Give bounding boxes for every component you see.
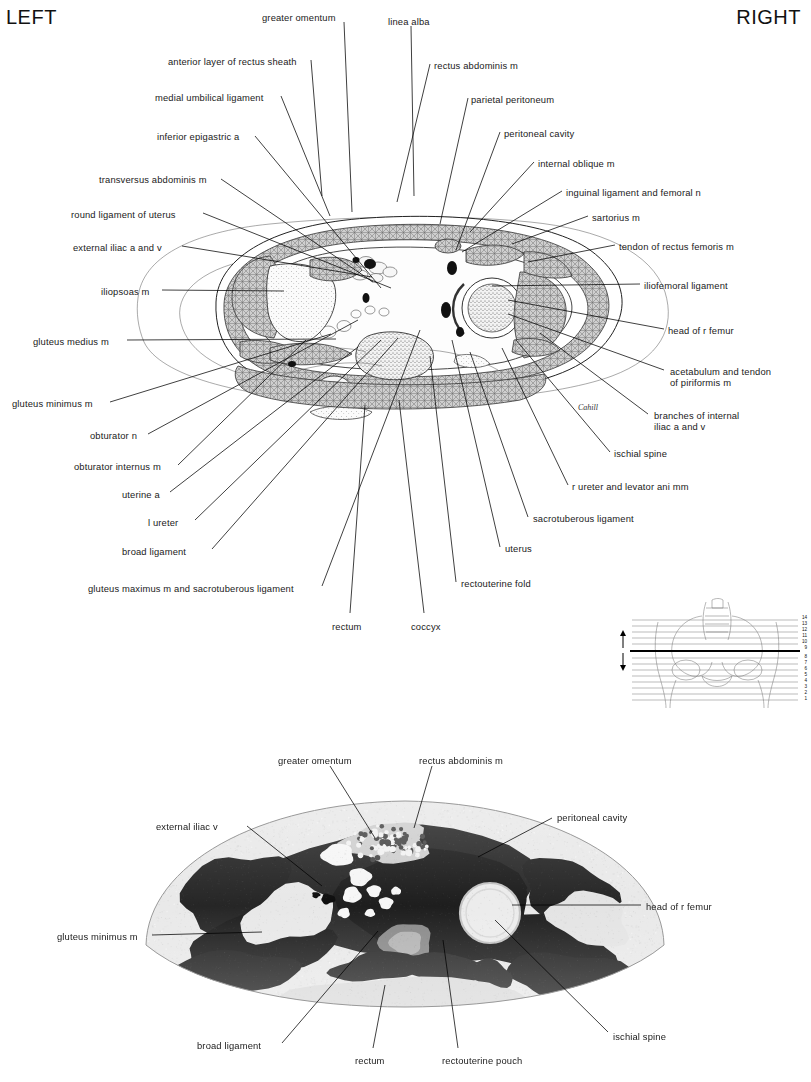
label-peritoneal-cavity-top: peritoneal cavity xyxy=(504,128,574,139)
label-branches-of-internal-iliac: branches of internal iliac a and v xyxy=(654,410,758,432)
key-level-9: 9 xyxy=(804,646,807,651)
label-obturator-internus-m: obturator internus m xyxy=(74,461,161,472)
key-level-4: 4 xyxy=(804,679,807,684)
photo-label-broad-ligament: broad ligament xyxy=(197,1040,261,1051)
label-external-iliac-a-and-v: external iliac a and v xyxy=(73,242,162,253)
photo-label-rectus-abdominis-m: rectus abdominis m xyxy=(419,755,503,766)
photo-label-peritoneal-cavity: peritoneal cavity xyxy=(557,812,627,823)
header-right-label: RIGHT xyxy=(736,6,801,29)
label-gluteus-medius-m: gluteus medius m xyxy=(33,336,109,347)
artist-signature: Cahill xyxy=(578,403,598,412)
label-inferior-epigastric-a: inferior epigastric a xyxy=(157,131,239,142)
label-rectouterine-fold: rectouterine fold xyxy=(461,578,531,589)
label-rectus-abdominis-m-top: rectus abdominis m xyxy=(434,60,518,71)
key-level-12: 12 xyxy=(802,628,807,633)
label-r-ureter-and-levator-ani-mm: r ureter and levator ani mm xyxy=(572,481,689,492)
label-gluteus-minimus-m: gluteus minimus m xyxy=(12,398,93,409)
key-level-10: 10 xyxy=(802,640,807,645)
key-level-1: 1 xyxy=(804,697,807,702)
label-head-of-r-femur-top: head of r femur xyxy=(668,325,734,336)
label-transversus-abdominis-m: transversus abdominis m xyxy=(99,174,207,185)
key-level-arrows xyxy=(618,628,628,673)
label-internal-oblique-m: internal oblique m xyxy=(538,158,615,169)
page-root: LEFT RIGHT xyxy=(0,0,811,1082)
label-uterus: uterus xyxy=(505,543,532,554)
label-anterior-layer-of-rectus-sheath: anterior layer of rectus sheath xyxy=(168,56,297,67)
photo-label-greater-omentum: greater omentum xyxy=(278,755,352,766)
label-linea-alba: linea alba xyxy=(388,16,430,27)
header-left-label: LEFT xyxy=(6,6,57,29)
label-iliopsoas-m: iliopsoas m xyxy=(101,286,150,297)
label-uterine-a: uterine a xyxy=(122,489,160,500)
label-tendon-of-rectus-femoris-m: tendon of rectus femoris m xyxy=(619,241,734,252)
label-gluteus-maximus-and-sacrotuberous: gluteus maximus m and sacrotuberous liga… xyxy=(88,583,294,594)
photo-label-ischial-spine: ischial spine xyxy=(613,1031,666,1042)
label-sacrotuberous-ligament: sacrotuberous ligament xyxy=(533,513,634,524)
label-acetabulum-and-piriformis: acetabulum and tendon of piriformis m xyxy=(670,366,780,388)
key-level-8: 8 xyxy=(804,655,807,660)
key-level-13: 13 xyxy=(802,622,807,627)
label-broad-ligament: broad ligament xyxy=(122,546,186,557)
section-level-key-diagram: 14 13 12 11 10 9 8 7 6 5 4 3 2 1 Hamstri… xyxy=(628,598,806,710)
key-level-numbers: 14 13 12 11 10 9 8 7 6 5 4 3 2 1 xyxy=(793,598,807,710)
label-l-ureter: l ureter xyxy=(148,517,178,528)
key-svg xyxy=(628,598,806,710)
key-level-2: 2 xyxy=(804,691,807,696)
photo-label-gluteus-minimus-m: gluteus minimus m xyxy=(57,931,138,942)
key-level-11: 11 xyxy=(802,634,807,639)
key-level-14: 14 xyxy=(802,616,807,621)
label-round-ligament-of-uterus: round ligament of uterus xyxy=(71,209,176,220)
label-rectum-top: rectum xyxy=(332,621,362,632)
key-level-3: 3 xyxy=(804,685,807,690)
label-parietal-peritoneum: parietal peritoneum xyxy=(471,94,554,105)
photograph-canvas xyxy=(138,795,672,1017)
label-iliofemoral-ligament: iliofemoral ligament xyxy=(644,280,728,291)
photo-label-rectum: rectum xyxy=(355,1055,385,1066)
pelvis-cross-section-photograph xyxy=(138,795,672,1017)
key-level-7: 7 xyxy=(804,661,807,666)
label-inguinal-ligament-and-femoral-n: inguinal ligament and femoral n xyxy=(566,187,701,198)
label-obturator-n: obturator n xyxy=(90,430,137,441)
photo-label-rectouterine-pouch: rectouterine pouch xyxy=(442,1055,522,1066)
photo-label-head-of-r-femur: head of r femur xyxy=(646,901,712,912)
label-medial-umbilical-ligament: medial umbilical ligament xyxy=(155,92,263,103)
label-ischial-spine-top: ischial spine xyxy=(614,448,667,459)
label-coccyx: coccyx xyxy=(411,621,441,632)
key-level-5: 5 xyxy=(804,673,807,678)
photo-label-external-iliac-v: external iliac v xyxy=(156,821,218,832)
key-level-6: 6 xyxy=(804,667,807,672)
label-greater-omentum-top: greater omentum xyxy=(262,12,336,23)
label-sartorius-m: sartorius m xyxy=(592,212,640,223)
